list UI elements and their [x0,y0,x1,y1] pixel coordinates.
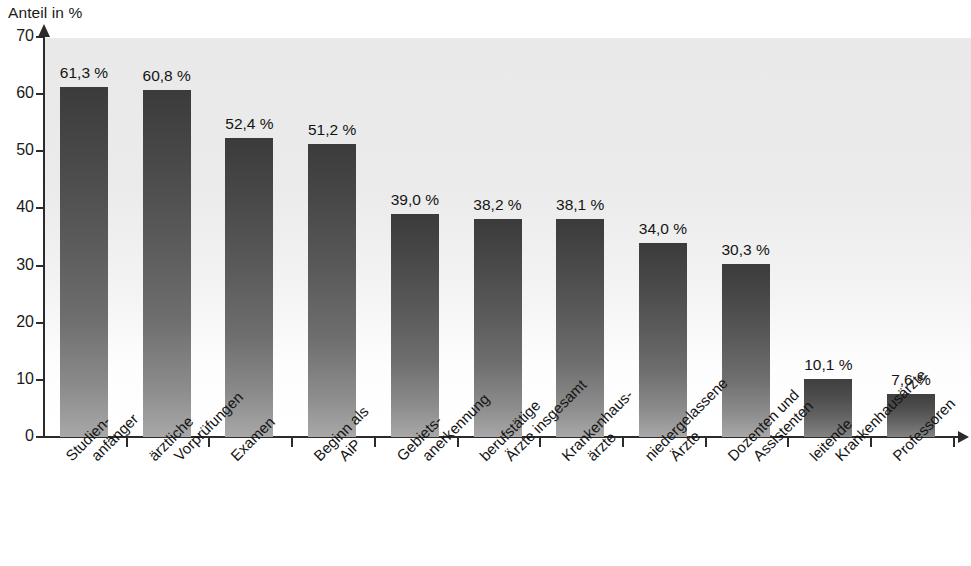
bar-value-label: 38,2 % [473,197,521,213]
y-axis-line [43,35,45,438]
x-axis-tick [539,438,541,447]
x-axis-tick [787,438,789,447]
bar-value-label: 39,0 % [391,192,439,208]
bar-chart: Anteil in % 010203040506070 61,3 %60,8 %… [0,0,971,566]
y-axis-tick-label: 70 [0,28,34,44]
y-axis-tick-label-wrap: 60 [0,85,34,101]
y-axis-tick-label: 40 [0,199,34,215]
y-axis-tick-label-wrap: 50 [0,142,34,158]
x-axis-tick [374,438,376,447]
x-axis-tick [622,438,624,447]
bar-value-label: 60,8 % [143,68,191,84]
bar [308,144,356,437]
y-axis-tick-label-wrap: 40 [0,199,34,215]
x-axis-tick [953,438,955,447]
y-axis-title: Anteil in % [8,4,82,22]
x-axis-tick [126,438,128,447]
y-axis-tick-label: 60 [0,85,34,101]
x-axis-tick [870,438,872,447]
y-axis-tick [36,265,45,267]
bar-value-label: 30,3 % [721,242,769,258]
y-axis-tick-label: 50 [0,142,34,158]
y-axis-tick [36,36,45,38]
bar-value-label: 10,1 % [804,357,852,373]
bar-value-label: 51,2 % [308,122,356,138]
y-axis-tick-label: 30 [0,257,34,273]
y-axis-tick-label-wrap: 20 [0,314,34,330]
x-axis-arrow-icon [958,431,969,443]
bar [391,214,439,437]
x-axis-tick [208,438,210,447]
bar-value-label: 52,4 % [225,116,273,132]
x-axis-tick [291,438,293,447]
y-axis-tick-label: 20 [0,314,34,330]
x-axis-tick [705,438,707,447]
y-axis-tick [36,322,45,324]
y-axis-tick-label: 0 [0,428,34,444]
bar-value-label: 34,0 % [639,221,687,237]
y-axis-tick-label: 10 [0,371,34,387]
y-axis-tick-label-wrap: 10 [0,371,34,387]
y-axis-tick [36,379,45,381]
bar-value-label: 38,1 % [556,197,604,213]
y-axis-tick [36,93,45,95]
y-axis-tick [36,207,45,209]
y-axis-tick-label-wrap: 70 [0,28,34,44]
y-axis-tick [36,150,45,152]
y-axis-tick-label-wrap: 0 [0,428,34,444]
x-axis-tick [457,438,459,447]
bar-value-label: 61,3 % [60,65,108,81]
y-axis-tick-label-wrap: 30 [0,257,34,273]
bar [60,87,108,437]
bar [143,90,191,437]
